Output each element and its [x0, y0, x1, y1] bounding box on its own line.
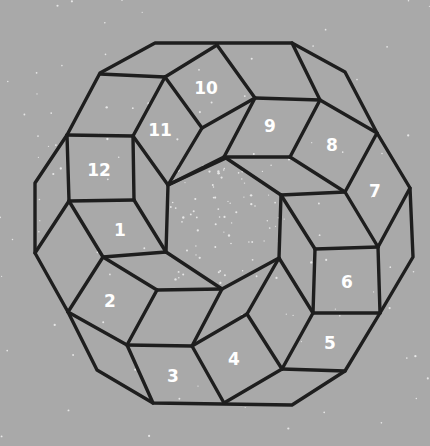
background-specks — [0, 0, 430, 437]
cell-label-2: 2 — [104, 291, 116, 311]
tiling-diagram: 1 2 3 4 5 6 7 8 9 10 11 12 — [0, 0, 430, 446]
cell-label-9: 9 — [264, 116, 276, 136]
cell-label-5: 5 — [324, 333, 336, 353]
cell-label-11: 11 — [148, 120, 172, 140]
outer-boundary — [35, 43, 413, 405]
cell-label-4: 4 — [228, 349, 240, 369]
cell-label-10: 10 — [194, 78, 218, 98]
cell-label-6: 6 — [341, 272, 353, 292]
cell-label-12: 12 — [87, 160, 111, 180]
cell-label-8: 8 — [326, 135, 338, 155]
tiling-edges — [35, 43, 413, 405]
cell-label-3: 3 — [167, 366, 179, 386]
cell-label-1: 1 — [114, 220, 126, 240]
cell-label-7: 7 — [369, 181, 381, 201]
